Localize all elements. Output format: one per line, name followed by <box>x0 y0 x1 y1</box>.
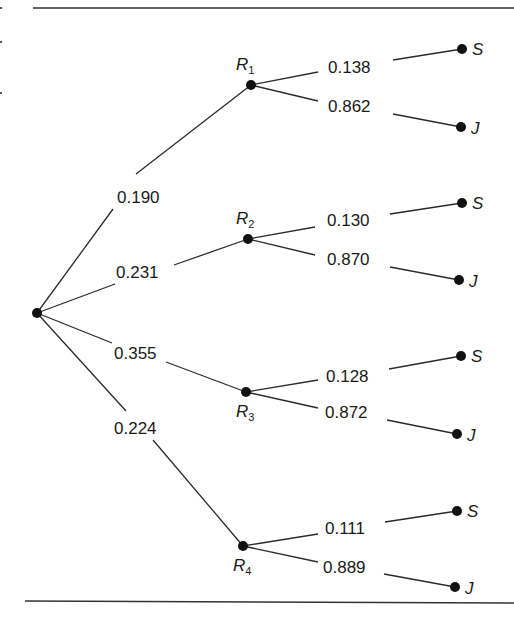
subtree-r2: 0.130 0.870 <box>248 203 462 280</box>
edge-tick <box>0 92 2 94</box>
leaf-label-j: J <box>466 426 476 445</box>
leaf-node-s <box>456 351 466 361</box>
r3-label: R3 <box>236 402 254 423</box>
branch-probability: 0.872 <box>325 403 368 422</box>
r3-node <box>241 387 251 397</box>
leaf-node-j <box>450 582 460 592</box>
leaf-label-j: J <box>470 119 480 138</box>
probability-tree-diagram: 0.190 0.231 0.355 0.224 0.138 0.862 0.13… <box>0 0 514 628</box>
r2-node <box>243 234 253 244</box>
r1-node <box>246 80 256 90</box>
leaf-node-s <box>457 44 467 54</box>
subtree-r3: 0.128 0.872 <box>246 356 461 434</box>
leaf-node-j <box>456 122 466 132</box>
edge-tick <box>0 7 2 9</box>
branch-probability: 0.889 <box>323 558 366 577</box>
r1-label: R1 <box>236 55 254 76</box>
leaf-node-s <box>452 506 462 516</box>
r2-label: R2 <box>236 209 254 230</box>
leaf-node-j <box>454 275 464 285</box>
branch-root-r2: 0.231 <box>37 239 248 313</box>
subtree-r4: 0.111 0.889 <box>243 511 457 587</box>
leaf-label-s: S <box>471 347 483 366</box>
branch-probability: 0.224 <box>114 419 157 438</box>
branch-root-r3: 0.355 <box>37 313 246 392</box>
leaf-label-s: S <box>472 194 484 213</box>
subtree-r1: 0.138 0.862 <box>251 49 462 127</box>
bottom-rule <box>25 601 514 603</box>
leaf-label-j: J <box>468 272 478 291</box>
leaf-label-j: J <box>464 579 474 598</box>
branch-probability: 0.870 <box>327 250 370 269</box>
branch-probability: 0.138 <box>328 58 371 77</box>
branch-probability: 0.111 <box>325 519 365 538</box>
branch-probability: 0.231 <box>116 263 159 282</box>
branch-probability: 0.190 <box>117 188 160 207</box>
root-node <box>32 308 42 318</box>
leaf-label-s: S <box>467 502 479 521</box>
branch-probability: 0.128 <box>326 367 369 386</box>
branch-probability: 0.355 <box>114 344 157 363</box>
r4-node <box>238 541 248 551</box>
edge-tick <box>0 41 2 43</box>
leaf-node-j <box>452 429 462 439</box>
branch-probability: 0.862 <box>328 97 371 116</box>
branch-probability: 0.130 <box>327 211 370 230</box>
leaf-label-s: S <box>472 40 484 59</box>
r4-label: R4 <box>233 556 251 577</box>
leaf-node-s <box>457 198 467 208</box>
